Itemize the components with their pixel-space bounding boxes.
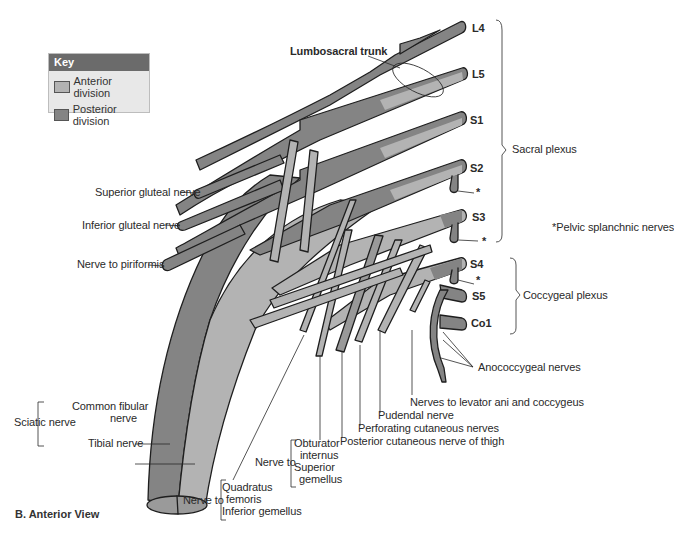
label-tibial: Tibial nerve xyxy=(88,437,143,450)
label-sacral-plexus: Sacral plexus xyxy=(512,143,577,156)
label-nerve-to-1: Nerve to xyxy=(255,456,296,469)
root-label-l5: L5 xyxy=(472,68,485,81)
legend-label: Posterior division xyxy=(73,103,149,127)
root-label-s4: S4 xyxy=(470,258,483,271)
star-marker-s4: * xyxy=(476,274,480,287)
label-lumbosacral-trunk: Lumbosacral trunk xyxy=(290,45,387,58)
legend-title: Key xyxy=(49,54,149,71)
label-superior-gluteal: Superior gluteal nerve xyxy=(95,186,200,199)
coccygeal-plexus-bracket xyxy=(510,258,520,334)
star-marker-s3: * xyxy=(482,235,486,248)
root-label-l4: L4 xyxy=(472,22,485,35)
root-label-s5: S5 xyxy=(472,290,485,303)
sacral-plexus-bracket xyxy=(496,20,506,242)
label-common-fibular-2: nerve xyxy=(110,412,137,425)
anterior-swatch-icon xyxy=(54,81,70,93)
legend-key: Key Anterior division Posterior division xyxy=(48,53,150,113)
root-label-co1: Co1 xyxy=(471,317,491,330)
label-levator-ani: Nerves to levator ani and coccygeus xyxy=(410,396,584,409)
root-label-s1: S1 xyxy=(470,114,483,127)
root-label-s3: S3 xyxy=(472,211,485,224)
coccygeal-trunk xyxy=(430,290,448,382)
label-superior-gemellus-2: gemellus xyxy=(299,473,342,486)
label-sciatic: Sciatic nerve xyxy=(14,416,76,429)
figure-title: B. Anterior View xyxy=(15,508,99,520)
label-pudendal: Pudendal nerve xyxy=(378,409,454,422)
legend-item-anterior: Anterior division xyxy=(54,75,149,99)
legend-item-posterior: Posterior division xyxy=(54,103,149,127)
posterior-swatch-icon xyxy=(54,109,69,121)
label-perforating: Perforating cutaneous nerves xyxy=(358,422,499,435)
label-inferior-gemellus: Inferior gemellus xyxy=(222,505,302,518)
legend-label: Anterior division xyxy=(74,75,150,99)
label-nerve-to-2: Nerve to xyxy=(183,494,224,507)
root-label-s2: S2 xyxy=(470,162,483,175)
label-inferior-gluteal: Inferior gluteal nerve xyxy=(82,219,180,232)
label-anococcygeal: Anococcygeal nerves xyxy=(478,361,581,374)
star-marker-s2: * xyxy=(476,186,480,199)
label-coccygeal-plexus: Coccygeal plexus xyxy=(523,289,608,302)
label-posterior-cutaneous: Posterior cutaneous nerve of thigh xyxy=(340,435,504,448)
label-nerve-to-piriformis: Nerve to piriformis xyxy=(77,258,164,271)
label-pelvic-splanchnic: *Pelvic splanchnic nerves xyxy=(552,221,674,234)
root-co1 xyxy=(440,315,467,330)
